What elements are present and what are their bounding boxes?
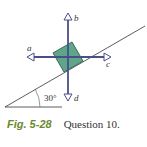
angle-label: 30° (44, 93, 57, 103)
arrow-left-icon (27, 53, 34, 61)
arrow-down-icon (64, 94, 72, 101)
caption-text: Question 10. (64, 118, 120, 130)
vector-c-label: c (106, 59, 110, 69)
angle-arc (35, 90, 40, 108)
vector-d-label: d (74, 93, 79, 103)
arrow-up-icon (64, 13, 72, 20)
vector-a-label: a (27, 43, 32, 53)
vector-b-label: b (74, 13, 79, 23)
figure-number: Fig. 5-28 (7, 118, 52, 130)
figure-caption: Fig. 5-28 Question 10. (7, 114, 120, 132)
